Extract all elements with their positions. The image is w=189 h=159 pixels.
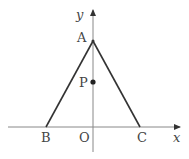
point-a-label: A <box>76 30 87 45</box>
y-axis-label: y <box>75 7 84 22</box>
point-c-label: C <box>137 130 147 145</box>
point-a-marker <box>92 40 95 43</box>
segment-ac <box>93 41 140 127</box>
point-p-label: P <box>79 75 88 90</box>
point-b-label: B <box>41 130 51 145</box>
x-axis-label: x <box>173 130 181 145</box>
diagram-svg: y A P B O C x <box>0 0 189 159</box>
point-p-marker <box>90 79 95 84</box>
coordinate-diagram: y A P B O C x <box>0 0 189 159</box>
origin-label: O <box>79 130 90 145</box>
